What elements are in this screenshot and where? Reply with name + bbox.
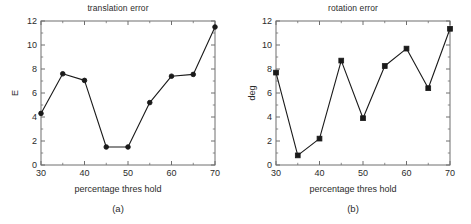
y-tick-label: 12: [262, 16, 272, 26]
panel-caption: (a): [0, 203, 236, 214]
y-tick-label: 4: [32, 112, 37, 122]
data-point-marker: [361, 116, 366, 121]
x-tick-label: 70: [210, 168, 220, 178]
y-tick-label: 2: [267, 136, 272, 146]
x-tick-label: 50: [358, 168, 368, 178]
axis-box: [276, 21, 450, 165]
x-tick-label: 60: [166, 168, 176, 178]
data-point-marker: [317, 136, 322, 141]
data-point-marker: [191, 72, 196, 77]
y-tick-label: 4: [267, 112, 272, 122]
figure-panel-a: translation error E 3040506070024681012 …: [0, 0, 236, 224]
data-point-marker: [295, 153, 300, 158]
y-tick-label: 8: [267, 64, 272, 74]
data-point-marker: [339, 58, 344, 63]
data-point-marker: [104, 145, 109, 150]
y-tick-label: 10: [27, 40, 37, 50]
data-point-marker: [213, 25, 218, 30]
figure-panel-b: rotation error deg 3040506070024681012 p…: [235, 0, 471, 224]
data-point-marker: [404, 46, 409, 51]
data-point-marker: [448, 26, 453, 31]
data-point-marker: [82, 78, 87, 83]
panel-caption: (b): [235, 203, 471, 214]
x-tick-label: 30: [271, 168, 281, 178]
y-tick-label: 12: [27, 16, 37, 26]
x-tick-label: 30: [36, 168, 46, 178]
axis-box: [41, 21, 215, 165]
data-point-marker: [147, 100, 152, 105]
data-point-marker: [382, 64, 387, 69]
y-tick-label: 8: [32, 64, 37, 74]
data-point-marker: [426, 86, 431, 91]
data-point-marker: [126, 145, 131, 150]
y-tick-label: 6: [267, 88, 272, 98]
x-axis-label: percentage thres hold: [235, 184, 471, 194]
y-tick-label: 6: [32, 88, 37, 98]
y-tick-label: 0: [32, 160, 37, 170]
data-point-marker: [169, 74, 174, 79]
y-tick-label: 10: [262, 40, 272, 50]
y-tick-label: 0: [267, 160, 272, 170]
x-tick-label: 60: [401, 168, 411, 178]
data-point-marker: [39, 111, 44, 116]
data-series-line: [41, 27, 215, 147]
x-tick-label: 50: [123, 168, 133, 178]
data-series-line: [276, 29, 450, 156]
data-point-marker: [60, 72, 65, 77]
x-tick-label: 70: [445, 168, 455, 178]
y-tick-label: 2: [32, 136, 37, 146]
x-tick-label: 40: [314, 168, 324, 178]
figure-page: translation error E 3040506070024681012 …: [0, 0, 471, 224]
data-point-marker: [274, 70, 279, 75]
x-tick-label: 40: [79, 168, 89, 178]
x-axis-label: percentage thres hold: [0, 184, 236, 194]
